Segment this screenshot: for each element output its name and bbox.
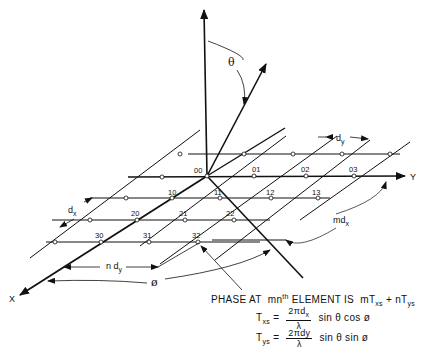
- mdx-dimension: mdx: [212, 182, 386, 243]
- svg-text:dx: dx: [68, 205, 77, 217]
- direction-vector: [207, 64, 266, 176]
- svg-text:02: 02: [301, 165, 309, 174]
- svg-text:20: 20: [131, 209, 139, 218]
- grid-rows: [46, 154, 400, 242]
- svg-text:32: 32: [192, 231, 200, 240]
- svg-text:mdx: mdx: [333, 215, 350, 227]
- svg-text:03: 03: [349, 165, 357, 174]
- svg-text:31: 31: [143, 231, 151, 240]
- svg-text:dy: dy: [336, 133, 345, 146]
- y-axis: [128, 176, 405, 177]
- svg-text:13: 13: [312, 188, 320, 197]
- tys-formula: Tys = 2πdyλ sin θ sin ø: [256, 328, 368, 349]
- element-32-pointer: [201, 246, 242, 290]
- svg-text:12: 12: [266, 188, 274, 197]
- dx-dimension: dx: [60, 198, 92, 227]
- svg-text:11: 11: [214, 188, 222, 197]
- theta-arc: [208, 41, 243, 60]
- svg-text:30: 30: [95, 231, 103, 240]
- svg-text:10: 10: [168, 188, 176, 197]
- ndy-dimension: n dy: [64, 243, 199, 274]
- x-axis-label: X: [9, 294, 15, 304]
- svg-text:n dy: n dy: [106, 261, 123, 274]
- svg-text:ø: ø: [151, 276, 158, 289]
- svg-text:00: 00: [194, 166, 202, 175]
- z-axis: [204, 10, 207, 176]
- y-axis-label: Y: [410, 172, 416, 182]
- svg-text:01: 01: [252, 165, 260, 174]
- svg-text:21: 21: [179, 209, 187, 218]
- theta-label: θ: [228, 56, 235, 69]
- svg-text:22: 22: [226, 209, 234, 218]
